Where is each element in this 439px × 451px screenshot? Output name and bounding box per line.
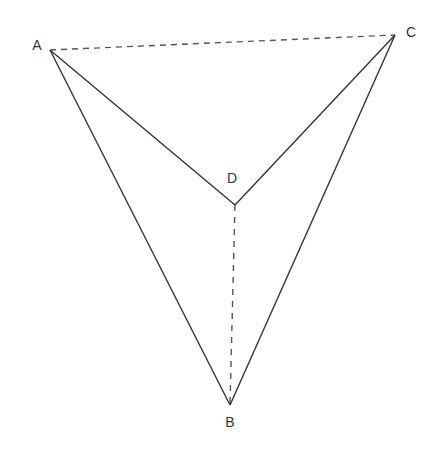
segment-AC-dashed xyxy=(50,35,395,50)
label-C: C xyxy=(406,24,416,40)
diagram-svg: A C D B xyxy=(0,0,439,451)
segment-AB xyxy=(50,50,230,405)
segment-DB-dashed xyxy=(230,205,235,405)
label-A: A xyxy=(32,37,42,53)
label-B: B xyxy=(225,414,234,430)
segment-AD xyxy=(50,50,235,205)
segment-CB xyxy=(230,35,395,405)
label-D: D xyxy=(227,170,237,186)
segment-CD xyxy=(235,35,395,205)
geometry-diagram: A C D B xyxy=(0,0,439,451)
